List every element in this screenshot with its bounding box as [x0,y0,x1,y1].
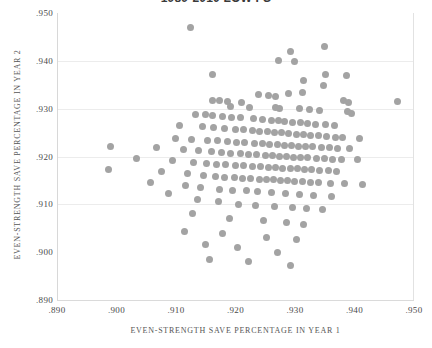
data-point [287,48,294,55]
data-point [289,119,296,126]
data-point [153,144,160,151]
scatter-chart: 1989-2010 LOW FS .890.900.910.920.930.94… [0,0,432,348]
data-point [172,135,179,142]
data-point [265,164,272,171]
data-point [293,236,300,243]
x-axis-line [57,300,414,301]
data-point [283,219,290,226]
data-point [235,201,242,208]
data-point [169,157,176,164]
data-point [316,107,323,114]
data-point [296,191,303,198]
data-point [239,175,246,182]
data-point [263,234,270,241]
data-point [206,256,213,263]
data-point [321,155,328,162]
data-point [232,126,239,133]
data-point [247,175,254,182]
data-point [284,177,291,184]
data-point [221,125,228,132]
data-point [282,190,289,197]
data-point [326,144,333,151]
data-point [294,165,301,172]
x-tick-label: .930 [270,305,320,315]
data-point [240,126,247,133]
data-point [300,77,307,84]
data-point [270,176,277,183]
data-point [249,127,256,134]
data-point [107,143,114,150]
data-point [318,144,325,151]
data-point [320,82,327,89]
data-point [287,262,294,269]
data-point [202,111,209,118]
data-point [240,162,247,169]
data-point [200,172,207,179]
data-point [315,132,322,139]
data-point [212,173,219,180]
data-point [228,114,235,121]
data-point [296,105,303,112]
data-point [227,150,234,157]
data-point [264,128,271,135]
data-point [233,139,240,146]
data-point [226,215,233,222]
x-axis-title: EVEN-STRENGTH SAVE PERCENTAGE IN YEAR 1 [57,326,414,335]
data-point [321,43,328,50]
data-point [260,217,267,224]
data-point [287,165,294,172]
data-point [269,152,276,159]
data-point [232,162,239,169]
data-point [346,145,353,152]
data-point [271,203,278,210]
data-point [306,106,313,113]
data-point [289,204,296,211]
data-point [348,110,355,117]
data-point [249,163,256,170]
data-point [308,166,315,173]
data-point [277,177,284,184]
data-point [322,71,329,78]
data-point [229,187,236,194]
data-point [263,176,270,183]
data-point [251,140,258,147]
data-point [202,241,209,248]
data-point [310,192,317,199]
data-point [339,134,346,141]
data-point [276,105,283,112]
data-point [291,178,298,185]
data-point [234,244,241,251]
gridline [58,109,413,110]
x-tick-label: .910 [151,305,201,315]
data-point [252,202,259,209]
x-tick-label: .890 [32,305,82,315]
data-point [359,181,366,188]
x-tick-label: .920 [211,305,261,315]
data-point [182,182,189,189]
data-point [274,249,281,256]
data-point [268,189,275,196]
data-point [329,156,336,163]
data-point [276,153,283,160]
data-point [333,168,340,175]
data-point [274,141,281,148]
data-point [231,174,238,181]
data-point [303,205,310,212]
data-point [189,210,196,217]
data-point [323,133,330,140]
x-tick-label: .900 [92,305,142,315]
data-point [325,167,332,174]
data-point [281,142,288,149]
data-point [147,179,154,186]
data-point [241,139,248,146]
data-point [221,174,228,181]
gridline [58,61,413,62]
data-point [245,258,252,265]
data-point [291,58,298,65]
data-point [256,128,263,135]
x-tick-label: .940 [330,305,380,315]
data-point [283,153,290,160]
data-point [278,129,285,136]
data-point [105,166,112,173]
data-point [192,111,199,118]
